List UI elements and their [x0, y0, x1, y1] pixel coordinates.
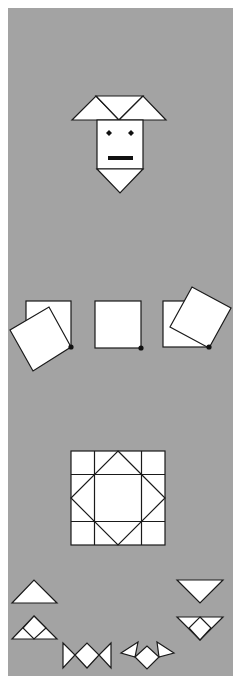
geometric-illustration [0, 0, 240, 687]
pivot-dot-right [206, 344, 211, 349]
bowtie-diamond [75, 643, 99, 668]
rotating-squares-figure [10, 287, 231, 371]
face-square [97, 120, 143, 169]
pivot-dot-left [68, 344, 73, 349]
chin-triangle [97, 169, 143, 193]
bat-left-wing [121, 642, 138, 657]
bat-diamond [135, 646, 159, 669]
bowtie-right-triangle [99, 643, 111, 668]
bowtie-left-triangle [63, 643, 75, 668]
triangle-down [177, 580, 223, 603]
bat-right-wing [157, 642, 174, 657]
triangle-pieces-figure [12, 580, 223, 669]
mouth-bar [108, 156, 133, 160]
goat-face-figure [72, 96, 166, 193]
square-middle [95, 301, 141, 348]
triangle-up [12, 580, 57, 603]
pivot-dot-middle [138, 345, 143, 350]
grid-diamond-figure [71, 451, 165, 545]
